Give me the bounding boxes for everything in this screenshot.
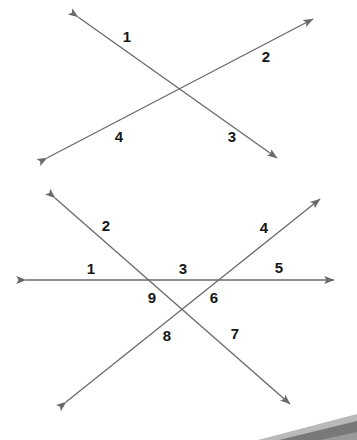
angle-label-bottom-1: 1 bbox=[87, 261, 95, 276]
angle-label-bottom-4: 4 bbox=[260, 220, 268, 235]
angle-label-bottom-5: 5 bbox=[275, 260, 283, 275]
angle-label-bottom-2: 2 bbox=[102, 218, 110, 233]
angle-label-top-4: 4 bbox=[115, 129, 123, 144]
angle-label-bottom-7: 7 bbox=[231, 326, 239, 341]
figure-root: 1 2 3 4 1 2 3 4 5 6 7 8 9 bbox=[0, 0, 357, 440]
angle-label-bottom-6: 6 bbox=[210, 290, 218, 305]
angle-label-top-3: 3 bbox=[228, 129, 236, 144]
top-line-rising bbox=[47, 19, 313, 158]
bottom-diagram-lines bbox=[26, 198, 334, 404]
angle-label-bottom-8: 8 bbox=[163, 328, 171, 343]
angle-label-bottom-9: 9 bbox=[148, 290, 156, 305]
bottom-line-falling-diagonal bbox=[55, 198, 290, 404]
scan-edge-artifact bbox=[258, 414, 357, 440]
top-diagram-lines bbox=[47, 17, 313, 158]
diagram-canvas bbox=[0, 0, 357, 440]
angle-label-top-2: 2 bbox=[262, 49, 270, 64]
angle-label-bottom-3: 3 bbox=[179, 261, 187, 276]
top-line-falling bbox=[78, 17, 277, 158]
angle-label-top-1: 1 bbox=[123, 29, 131, 44]
